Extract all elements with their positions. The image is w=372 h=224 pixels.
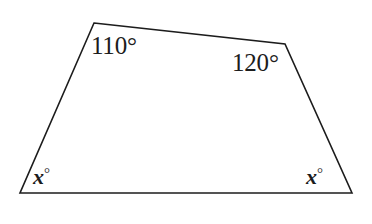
angle-label-top-right: 120°	[232, 50, 279, 75]
angle-label-top-left: 110°	[91, 33, 137, 58]
angle-value-top-left: 110	[91, 32, 127, 59]
angle-label-bottom-left: x°	[33, 166, 50, 188]
angle-value-top-right: 120	[232, 49, 269, 76]
degree-symbol-top-right: °	[269, 49, 279, 76]
quadrilateral-shape-canvas	[0, 0, 372, 224]
angle-label-bottom-right: x°	[306, 166, 323, 188]
degree-symbol-bottom-left: °	[44, 165, 50, 181]
quadrilateral-figure: 110° 120° x° x°	[0, 0, 372, 224]
degree-symbol-bottom-right: °	[317, 165, 323, 181]
angle-value-bottom-right: x	[306, 164, 317, 189]
angle-value-bottom-left: x	[33, 164, 44, 189]
degree-symbol-top-left: °	[127, 32, 137, 59]
